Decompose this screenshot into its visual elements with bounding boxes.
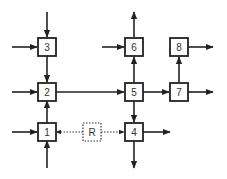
node-R: R <box>83 123 101 141</box>
node-4: 4 <box>125 123 143 141</box>
node-8: 8 <box>170 38 188 56</box>
node-1-label: 1 <box>44 127 50 138</box>
node-R-label: R <box>88 127 95 138</box>
node-3: 3 <box>38 38 56 56</box>
node-5: 5 <box>125 83 143 101</box>
node-1: 1 <box>38 123 56 141</box>
node-8-label: 8 <box>176 42 182 53</box>
node-4-label: 4 <box>131 127 137 138</box>
flow-diagram: 3 2 1 6 5 4 7 8 R <box>0 0 227 179</box>
node-5-label: 5 <box>131 87 137 98</box>
node-2-label: 2 <box>44 87 50 98</box>
node-2: 2 <box>38 83 56 101</box>
node-6: 6 <box>125 38 143 56</box>
node-3-label: 3 <box>44 42 50 53</box>
node-7-label: 7 <box>176 87 182 98</box>
node-7: 7 <box>170 83 188 101</box>
node-6-label: 6 <box>131 42 137 53</box>
